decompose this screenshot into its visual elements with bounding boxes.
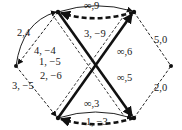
edge-b-a — [61, 12, 134, 18]
node-a — [56, 10, 60, 14]
label-b-c-dashed: 2, −6 — [40, 70, 62, 81]
label-d-c: 1, −3 — [86, 116, 108, 127]
label-a-d-dashed: 1, −5 — [39, 56, 61, 67]
label-b-a: 3, −9 — [84, 28, 106, 39]
node-d — [132, 116, 136, 120]
label-d-t: 2,0 — [154, 82, 167, 93]
label-a-b: ∞,9 — [84, 0, 99, 11]
flow-network-diagram: 2,4 4, −4 ∞,9 3, −9 1, −5 ∞,5 ∞,6 2, −6 … — [0, 0, 182, 130]
label-a-d-bold: ∞,5 — [117, 72, 132, 83]
label-s-a: 2,4 — [17, 27, 31, 38]
node-s — [14, 64, 18, 68]
label-s-c: 3, −5 — [12, 80, 34, 91]
label-c-d: ∞,3 — [84, 98, 99, 109]
node-b — [132, 10, 136, 14]
node-c — [56, 116, 60, 120]
label-c-b-bold: ∞,6 — [117, 46, 132, 57]
label-a-s: 4, −4 — [34, 45, 56, 56]
node-t — [169, 64, 173, 68]
label-b-t: 5,0 — [154, 34, 167, 45]
